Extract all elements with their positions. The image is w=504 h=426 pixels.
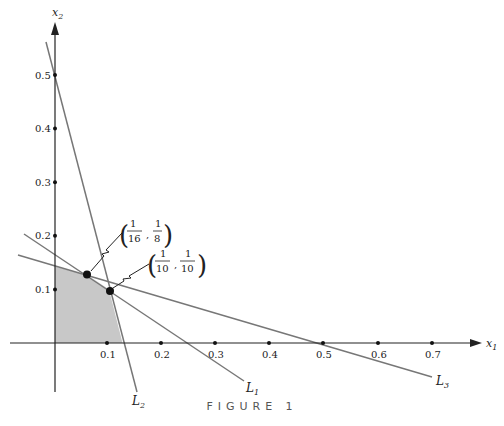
figure-diagram: x1 x2 0.1 0.2 0.3 0.4 0.5 0.6 0.7 0.1 0.…: [0, 0, 504, 426]
vertex-1-10-1-10: [106, 287, 114, 295]
svg-text:0.3: 0.3: [35, 177, 51, 188]
svg-text:8: 8: [154, 233, 160, 244]
svg-text:16: 16: [128, 233, 141, 244]
svg-text:10: 10: [156, 263, 169, 274]
label-L1: L1: [245, 381, 259, 397]
svg-text:0.6: 0.6: [371, 349, 387, 360]
svg-text:10: 10: [181, 263, 194, 274]
vertex-1-16-1-8: [83, 271, 91, 279]
svg-text:0.5: 0.5: [316, 349, 332, 360]
svg-text:0.1: 0.1: [35, 284, 51, 295]
svg-text:0.2: 0.2: [35, 230, 51, 241]
figure-caption: FIGURE 1: [0, 400, 504, 413]
annotation-point-1: ( 1 16 , 1 8 ): [119, 218, 173, 250]
svg-text:0.2: 0.2: [154, 349, 170, 360]
y-axis-arrow-icon: [51, 22, 59, 35]
svg-text:1: 1: [160, 248, 166, 259]
svg-text:0.1: 0.1: [100, 349, 116, 360]
svg-text:,: ,: [146, 229, 149, 240]
svg-text:1: 1: [130, 218, 136, 229]
svg-text:): ): [197, 250, 207, 280]
svg-text:0.5: 0.5: [35, 70, 51, 81]
label-L3: L3: [435, 374, 449, 390]
annotation-point-2: ( 1 10 , 1 10 ): [147, 248, 207, 280]
svg-text:1: 1: [155, 218, 161, 229]
x-axis-arrow-icon: [470, 339, 482, 347]
x-ticks: 0.1 0.2 0.3 0.4 0.5 0.6 0.7: [100, 341, 441, 360]
leader-line-2: [113, 264, 149, 288]
svg-text:0.3: 0.3: [208, 349, 224, 360]
leader-line-1: [91, 233, 122, 271]
x-axis-label: x1: [486, 337, 497, 352]
svg-text:1: 1: [185, 248, 191, 259]
svg-text:0.4: 0.4: [35, 123, 51, 134]
svg-text:0.4: 0.4: [262, 349, 278, 360]
svg-text:): ): [163, 220, 173, 250]
y-axis-label: x2: [52, 6, 63, 21]
svg-text:,: ,: [174, 259, 177, 270]
svg-text:0.7: 0.7: [425, 349, 441, 360]
